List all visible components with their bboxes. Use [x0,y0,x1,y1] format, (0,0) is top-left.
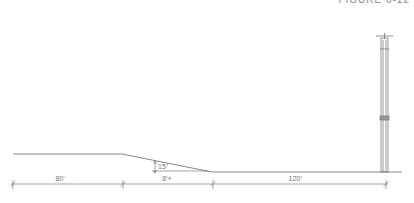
slope-angle-label: 15° [158,163,169,170]
ground-profile [13,154,402,172]
dimension-label-8: 8'+ [162,175,171,182]
pole-shaft [381,38,388,172]
dimension-line [11,180,389,189]
light-pole [376,33,393,172]
dimension-label-80: 80' [55,175,64,182]
dimension-label-120: 120' [288,175,301,182]
elevation-drawing: 15° 80' 8'+ 120' [0,0,414,203]
ground-line [13,154,402,172]
pole-bracket [380,116,389,120]
